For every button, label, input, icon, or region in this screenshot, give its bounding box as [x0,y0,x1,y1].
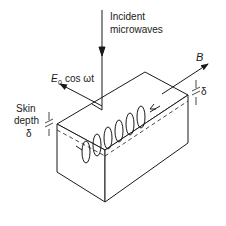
skin-label-symbol: δ [26,128,32,139]
incident-label-line1: Incident [110,11,145,22]
delta-right-label: δ [201,86,207,97]
skin-label-line2: depth [14,115,39,126]
skin-depth-diagram: Incident microwaves E 0 cos ωt B δ Skin … [0,0,226,226]
skin-depth-dimension [45,112,53,136]
bfield-label: B [196,51,203,63]
efield-label-sub: 0 [58,79,62,86]
incident-label-line2: microwaves [110,24,163,35]
incident-arrow [92,10,105,110]
delta-right-dimension [192,80,200,105]
efield-arrow [60,84,102,106]
efield-label-e: E [51,73,58,84]
skin-label-line1: Skin [16,103,35,114]
efield-label-rest: cos ωt [65,73,94,84]
